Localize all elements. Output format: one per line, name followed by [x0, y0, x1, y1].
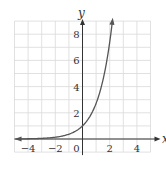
- x-tick-label: −4: [21, 143, 36, 154]
- x-tick-label: 4: [134, 143, 140, 154]
- y-tick-label: 8: [73, 29, 79, 40]
- curve-left-arrow-icon: [15, 136, 22, 141]
- y-tick-label: 2: [73, 108, 79, 119]
- x-axis-label: x: [162, 132, 166, 146]
- exponential-curve: [17, 21, 113, 139]
- y-axis-label: y: [77, 6, 85, 20]
- axes: [15, 19, 161, 155]
- x-axis-arrow-icon: [155, 137, 161, 142]
- y-tick-label: 6: [73, 55, 79, 66]
- curve: [15, 18, 115, 142]
- y-tick-label: 4: [73, 82, 79, 93]
- x-tick-label: −2: [48, 143, 63, 154]
- tick-labels: −4−20242468xy: [21, 6, 166, 154]
- exponential-graph: −4−20242468xy: [0, 0, 166, 171]
- x-tick-label: 2: [107, 143, 113, 154]
- x-tick-label: 0: [73, 143, 79, 154]
